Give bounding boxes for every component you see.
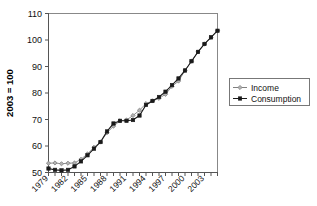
legend-label-income: Income	[251, 83, 279, 93]
chart-figure: 5060708090100110 19791982198519881991199…	[0, 0, 317, 206]
data-point-marker	[138, 114, 141, 117]
data-point-marker	[66, 168, 69, 171]
data-point-marker	[86, 154, 89, 157]
data-point-marker	[190, 60, 193, 63]
x-axis: 197919821985198819911994199720002003	[29, 173, 218, 194]
data-point-marker	[131, 118, 134, 121]
y-tick-labels: 5060708090100110	[27, 9, 42, 178]
legend-label-consumption: Consumption	[251, 94, 301, 104]
chart-legend: IncomeConsumption	[230, 79, 310, 106]
data-point-marker	[183, 69, 186, 72]
data-point-marker	[151, 99, 154, 102]
x-tick-labels: 197919821985198819911994199720002003	[29, 173, 206, 194]
x-tick-label: 1985	[68, 173, 89, 194]
x-tick-label: 1991	[107, 173, 128, 194]
series-line	[49, 31, 218, 164]
data-point-marker	[53, 168, 56, 171]
data-point-marker	[59, 162, 63, 166]
legend-marker-consumption	[238, 97, 241, 100]
x-tick-marks	[49, 173, 218, 177]
y-axis-title: 2003 = 100	[4, 69, 15, 117]
x-tick-label: 2003	[185, 173, 206, 194]
data-point-marker	[47, 167, 50, 170]
data-series-layer	[46, 29, 219, 172]
data-point-marker	[216, 29, 219, 32]
y-tick-label: 70	[32, 115, 42, 125]
data-point-marker	[105, 130, 108, 133]
series-income	[46, 29, 219, 166]
data-point-marker	[203, 42, 206, 45]
x-tick-label: 2000	[166, 173, 187, 194]
y-tick-label: 100	[27, 35, 42, 45]
y-tick-label: 80	[32, 88, 42, 98]
data-point-marker	[118, 119, 121, 122]
y-tick-marks	[45, 14, 49, 173]
series-consumption	[47, 29, 219, 172]
data-point-marker	[79, 160, 82, 163]
data-point-marker	[60, 169, 63, 172]
data-point-marker	[99, 140, 102, 143]
data-point-marker	[209, 36, 212, 39]
data-point-marker	[170, 83, 173, 86]
data-point-marker	[53, 161, 57, 165]
y-axis: 5060708090100110	[27, 9, 49, 178]
data-point-marker	[66, 161, 70, 165]
x-tick-label: 1994	[127, 173, 148, 194]
data-point-marker	[196, 50, 199, 53]
y-tick-label: 90	[32, 62, 42, 72]
y-tick-label: 110	[28, 9, 42, 19]
data-point-marker	[157, 95, 160, 98]
x-tick-label: 1997	[146, 173, 167, 194]
data-point-marker	[92, 147, 95, 150]
data-point-marker	[177, 77, 180, 80]
data-point-marker	[112, 122, 115, 125]
data-point-marker	[46, 161, 50, 165]
x-tick-label: 1982	[49, 173, 70, 194]
income-consumption-line-chart: 5060708090100110 19791982198519881991199…	[0, 0, 317, 206]
data-point-marker	[73, 165, 76, 168]
data-point-marker	[125, 119, 128, 122]
plot-frame	[48, 14, 218, 173]
series-line	[49, 31, 218, 171]
data-point-marker	[144, 103, 147, 106]
y-tick-label: 60	[32, 141, 42, 151]
x-tick-label: 1988	[88, 173, 109, 194]
data-point-marker	[164, 90, 167, 93]
